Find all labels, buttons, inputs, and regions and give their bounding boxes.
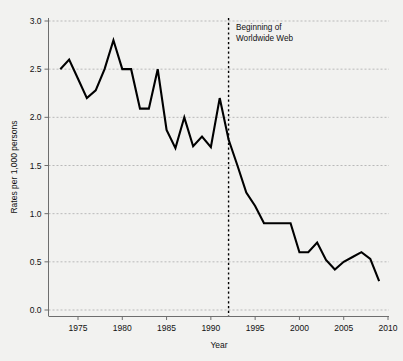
chart-background bbox=[0, 0, 403, 361]
x-tick-label: 2000 bbox=[290, 323, 309, 333]
y-tick-label: 0.5 bbox=[30, 257, 42, 267]
x-tick-label: 1980 bbox=[113, 323, 132, 333]
x-axis-title: Year bbox=[210, 340, 227, 350]
annotation-label-line2: Worldwide Web bbox=[236, 34, 293, 43]
x-tick-label: 2010 bbox=[379, 323, 398, 333]
x-tick-label: 1995 bbox=[246, 323, 265, 333]
x-tick-label: 2005 bbox=[334, 323, 353, 333]
x-tick-label: 1975 bbox=[69, 323, 88, 333]
chart-container: 0.00.51.01.52.02.53.0 197519801985199019… bbox=[0, 0, 403, 361]
y-tick-label: 1.0 bbox=[30, 209, 42, 219]
x-tick-label: 1990 bbox=[201, 323, 220, 333]
y-tick-label: 0.0 bbox=[30, 305, 42, 315]
annotation-label-line1: Beginning of bbox=[236, 23, 282, 32]
y-axis-title: Rates per 1,000 persons bbox=[9, 120, 19, 213]
y-tick-label: 3.0 bbox=[30, 16, 42, 26]
y-tick-label: 1.5 bbox=[30, 161, 42, 171]
y-tick-label: 2.0 bbox=[30, 112, 42, 122]
y-tick-label: 2.5 bbox=[30, 64, 42, 74]
line-chart: 0.00.51.01.52.02.53.0 197519801985199019… bbox=[0, 0, 403, 361]
x-tick-label: 1985 bbox=[157, 323, 176, 333]
